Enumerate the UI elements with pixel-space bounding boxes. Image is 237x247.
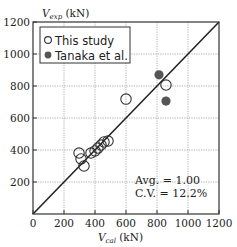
- x-tick-label: 800: [147, 217, 167, 229]
- x-axis-label: Vcal (kN): [98, 231, 143, 245]
- y-tick-label: 600: [10, 112, 30, 124]
- open-circle-icon: [45, 37, 52, 44]
- y-tick-label: 800: [10, 80, 30, 92]
- y-tick-label: 1200: [3, 16, 30, 28]
- y-tick-label: 1000: [3, 48, 30, 60]
- legend: This study Tanaka et al.: [40, 27, 130, 63]
- annotation-cv: C.V. = 12.2%: [135, 187, 207, 200]
- x-tick-label: 400: [85, 217, 105, 229]
- filled-circle-point: [154, 70, 163, 79]
- scatter-chart: 0200400600800100012002004006008001000120…: [0, 0, 237, 247]
- y-axis-label: Vexp (kN): [42, 7, 89, 21]
- x-tick-label: 0: [30, 217, 37, 229]
- annotation-avg: Avg. = 1.00: [134, 174, 200, 187]
- y-tick-label: 200: [10, 176, 30, 188]
- x-tick-label: 1200: [206, 217, 233, 229]
- x-tick-label: 1000: [175, 217, 202, 229]
- filled-circle-point: [161, 96, 170, 105]
- open-circle-point: [161, 80, 171, 90]
- chart-canvas: 0200400600800100012002004006008001000120…: [0, 0, 237, 247]
- x-tick-label: 200: [54, 217, 74, 229]
- filled-circle-icon: [45, 52, 52, 59]
- open-circle-point: [76, 154, 86, 164]
- legend-label-this-study: This study: [54, 34, 114, 48]
- legend-label-tanaka: Tanaka et al.: [54, 49, 128, 63]
- x-tick-label: 600: [116, 217, 136, 229]
- open-circle-point: [74, 148, 84, 158]
- y-tick-label: 400: [10, 144, 30, 156]
